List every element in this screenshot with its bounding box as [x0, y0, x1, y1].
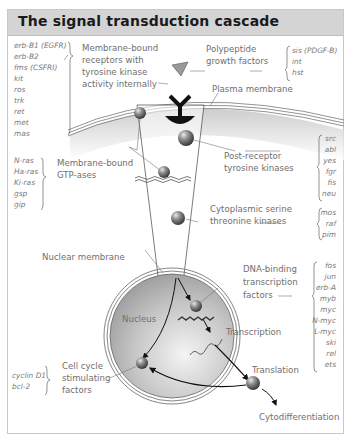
svg-text:tyrosine kinases: tyrosine kinases: [224, 163, 294, 173]
svg-text:Cytoplasmic serine: Cytoplasmic serine: [210, 204, 292, 214]
svg-text:N-ras: N-ras: [14, 156, 34, 165]
svg-text:erb-B2: erb-B2: [14, 52, 39, 61]
svg-text:threonine kinases: threonine kinases: [210, 216, 287, 226]
svg-text:erb-A: erb-A: [316, 283, 336, 292]
svg-text:neu: neu: [322, 189, 336, 198]
svg-text:Polypeptide: Polypeptide: [206, 44, 256, 54]
svg-text:factors: factors: [62, 385, 92, 395]
svg-text:myb: myb: [320, 294, 337, 303]
receptors-label: Membrane-bound receptors with tyrosine k…: [82, 43, 158, 89]
dna-binding-label: DNA-binding transcription factors: [243, 264, 298, 300]
svg-text:N-myc: N-myc: [312, 316, 336, 325]
svg-text:pim: pim: [321, 230, 336, 239]
gtpase-sphere-2: [158, 166, 170, 178]
growth-factor-genes: sis (PDGF-B) int hst: [285, 46, 337, 81]
growth-factors-label: Polypeptide growth factors: [206, 44, 269, 66]
svg-text:cyclin D1: cyclin D1: [12, 371, 46, 380]
nuclear-membrane-label: Nuclear membrane: [42, 252, 125, 262]
cytodifferentiation-label: Cytodifferentiation: [259, 412, 339, 422]
transcription-genes: fos jun erb-A myb myc N-myc L-myc ski re…: [312, 261, 337, 372]
cytoplasmic-label: Cytoplasmic serine threonine kinases: [210, 204, 292, 226]
translation-sphere: [246, 376, 260, 390]
svg-text:gsp: gsp: [14, 189, 28, 198]
svg-text:src: src: [325, 134, 336, 143]
svg-text:ros: ros: [14, 85, 26, 94]
svg-text:rel: rel: [326, 349, 337, 358]
svg-text:raf: raf: [326, 219, 338, 228]
cell-cycle-sphere: [136, 357, 148, 369]
svg-text:DNA-binding: DNA-binding: [243, 264, 297, 274]
post-receptor-sphere: [178, 130, 194, 146]
translation-label: Translation: [251, 365, 299, 375]
svg-text:int: int: [292, 57, 303, 66]
svg-text:activity internally: activity internally: [82, 79, 157, 89]
svg-text:ret: ret: [14, 107, 26, 116]
svg-text:Membrane-bound: Membrane-bound: [57, 158, 133, 168]
svg-text:GTP-ases: GTP-ases: [57, 170, 97, 180]
svg-text:fms (CSFRI): fms (CSFRI): [14, 63, 57, 72]
svg-text:fgr: fgr: [326, 167, 337, 176]
svg-text:Ha-ras: Ha-ras: [14, 167, 38, 176]
dna-binding-sphere: [190, 300, 202, 312]
svg-text:ets: ets: [325, 360, 336, 369]
cell-cycle-label: Cell cycle stimulating factors: [62, 361, 110, 395]
svg-text:Cell cycle: Cell cycle: [62, 361, 103, 371]
cytoplasmic-sphere: [171, 211, 185, 225]
svg-text:hst: hst: [292, 68, 305, 77]
svg-text:factors: factors: [243, 290, 273, 300]
svg-text:fis: fis: [327, 178, 336, 187]
svg-text:Membrane-bound: Membrane-bound: [82, 43, 158, 53]
transcription-label: Transcription: [225, 327, 281, 337]
gtpases-label: Membrane-bound GTP-ases: [57, 158, 133, 180]
receptor-genes: erb-B1 (EGFR) erb-B2 fms (CSFRI) kit ros…: [14, 41, 73, 138]
svg-text:receptors with: receptors with: [82, 55, 144, 65]
svg-text:abl: abl: [325, 145, 337, 154]
svg-text:yes: yes: [322, 156, 336, 165]
gtpase-sphere-1: [134, 107, 146, 119]
svg-text:tyrosine kinase: tyrosine kinase: [82, 67, 147, 77]
cytoplasmic-genes: mos raf pim: [317, 208, 337, 240]
svg-text:jun: jun: [324, 272, 337, 281]
svg-text:L-myc: L-myc: [314, 327, 336, 336]
svg-text:kit: kit: [14, 74, 24, 83]
plasma-membrane-label: Plasma membrane: [212, 84, 293, 94]
svg-text:erb-B1 (EGFR): erb-B1 (EGFR): [14, 41, 67, 50]
svg-text:bcl-2: bcl-2: [12, 382, 30, 391]
plasma-membrane: [68, 102, 344, 160]
nucleus: [104, 268, 240, 404]
svg-text:transcription: transcription: [243, 277, 298, 287]
svg-text:Post-receptor: Post-receptor: [224, 151, 282, 161]
svg-text:met: met: [14, 118, 30, 127]
svg-text:stimulating: stimulating: [62, 373, 110, 383]
growth-factor-icon: [172, 62, 188, 76]
svg-text:Ki-ras: Ki-ras: [14, 178, 35, 187]
gtpase-genes: N-ras Ha-ras Ki-ras gsp gip: [14, 156, 46, 210]
svg-text:trk: trk: [14, 96, 25, 105]
svg-text:mos: mos: [320, 208, 336, 217]
cell-cycle-genes: cyclin D1 bcl-2: [12, 366, 50, 395]
svg-text:sis (PDGF-B): sis (PDGF-B): [292, 46, 337, 55]
svg-text:growth factors: growth factors: [206, 56, 269, 66]
svg-text:ski: ski: [326, 338, 337, 347]
svg-text:myc: myc: [320, 305, 336, 314]
svg-text:mas: mas: [14, 129, 30, 138]
cascade-diagram: Membrane-bound receptors with tyrosine k…: [0, 0, 353, 436]
svg-text:gip: gip: [14, 200, 26, 209]
post-receptor-label: Post-receptor tyrosine kinases: [224, 151, 294, 173]
nucleus-label: Nucleus: [122, 314, 157, 324]
svg-text:fos: fos: [325, 261, 336, 270]
